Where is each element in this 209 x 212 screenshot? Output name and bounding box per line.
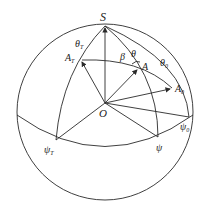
label-beta: β <box>119 51 125 62</box>
label-theta-0: θ0 <box>160 57 168 69</box>
label-theta: θ <box>131 48 136 59</box>
label-A: A <box>141 61 149 72</box>
line-O-psi <box>105 103 158 137</box>
equator-arc <box>17 115 193 147</box>
latitude-arc <box>82 60 172 88</box>
line-O-psi0 <box>105 103 189 117</box>
label-psi-0: ψ0 <box>180 121 189 133</box>
line-O-psiT <box>56 103 105 140</box>
label-S: S <box>100 10 106 24</box>
label-psi-T: ψT <box>44 144 54 156</box>
label-O: O <box>99 107 107 119</box>
vector-OA <box>105 70 137 103</box>
spherical-diagram: S O θT AT β θ A θ0 A0 ψT ψ ψ0 <box>0 0 209 212</box>
label-A-T: AT <box>64 52 75 64</box>
vector-OAT <box>82 62 105 103</box>
theta-angle-arc <box>132 61 140 64</box>
label-theta-T: θT <box>75 38 84 50</box>
label-A-0: A0 <box>174 83 184 95</box>
label-psi: ψ <box>156 142 163 153</box>
sphere-figure: S O θT AT β θ A θ0 A0 ψT ψ ψ0 <box>0 0 209 212</box>
vector-OA0 <box>105 89 170 103</box>
